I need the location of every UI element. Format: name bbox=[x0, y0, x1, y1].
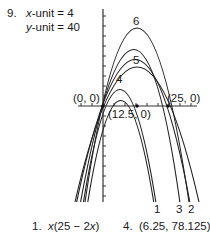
label-12-5: (12.5, 0) bbox=[108, 108, 151, 120]
curve-label-1: 1 bbox=[154, 203, 160, 215]
label-25: (25, 0) bbox=[167, 92, 200, 104]
curve-2 bbox=[76, 59, 190, 205]
answer-4-num: 4. bbox=[123, 220, 133, 232]
curve-1 bbox=[83, 89, 156, 205]
parabola-graph: (0, 0) (12.5, 0) (25, 0) 6 5 4 1 3 2 bbox=[0, 0, 210, 237]
answer-1: 1. x(25 − 2x) bbox=[32, 220, 99, 233]
answer-4-value: (6.25, 78.125) bbox=[139, 220, 210, 232]
answer-4: 4. (6.25, 78.125) bbox=[123, 220, 210, 233]
answer-1-num: 1. bbox=[32, 220, 42, 232]
point-25 bbox=[166, 104, 170, 108]
curve-label-2: 2 bbox=[188, 203, 194, 215]
curve-label-4: 4 bbox=[116, 73, 123, 85]
label-origin: (0, 0) bbox=[73, 92, 100, 104]
answer-1-mid: (25 − 2 bbox=[54, 220, 90, 232]
curve-label-5: 5 bbox=[133, 54, 139, 66]
curve-label-6: 6 bbox=[133, 15, 139, 27]
point-origin bbox=[101, 104, 105, 108]
curve-label-3: 3 bbox=[176, 203, 182, 215]
answer-1-close: ) bbox=[96, 220, 100, 232]
